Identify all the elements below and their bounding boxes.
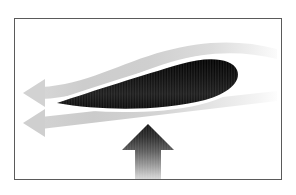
figure-frame (14, 18, 282, 180)
figure-root: Airfoil lift diagram (0, 0, 296, 195)
airfoil-diagram-svg (15, 19, 281, 179)
